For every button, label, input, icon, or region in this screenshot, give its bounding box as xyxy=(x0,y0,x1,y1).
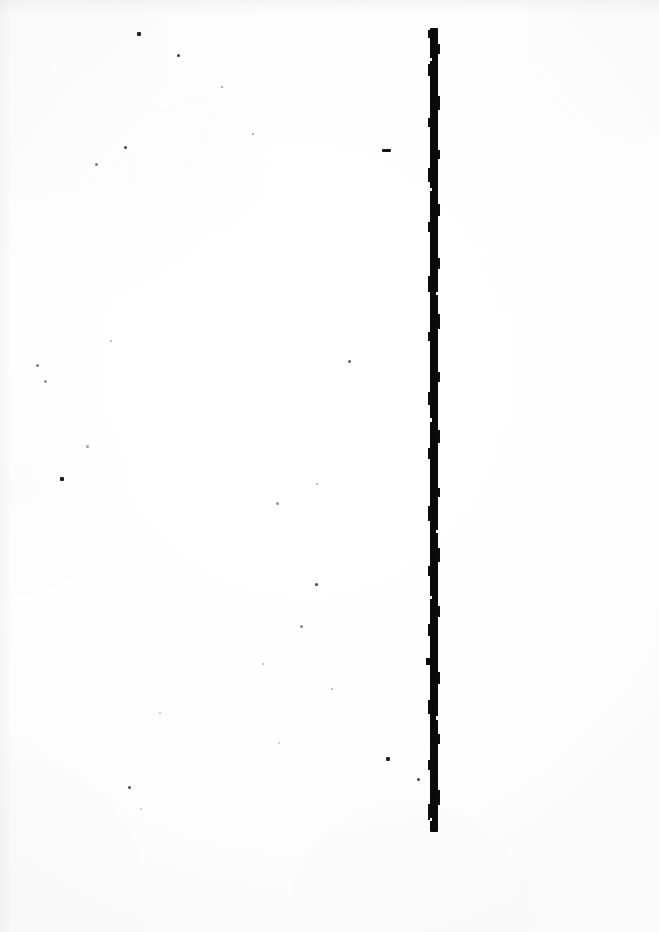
vertical-rule-edge-fragment xyxy=(428,30,430,38)
scanned-page xyxy=(0,0,659,932)
dust-speck xyxy=(316,483,318,485)
vertical-rule-edge-fragment xyxy=(438,150,440,159)
dust-speck xyxy=(386,757,390,761)
vertical-rule-edge-fragment xyxy=(428,506,430,521)
vertical-rule-edge-fragment xyxy=(428,222,430,232)
vertical-rule-edge-fragment xyxy=(438,672,440,684)
dust-speck xyxy=(348,360,351,363)
dust-speck xyxy=(60,477,64,481)
vertical-rule-edge-fragment xyxy=(438,44,440,54)
dust-speck xyxy=(140,808,142,810)
vertical-rule-edge-fragment xyxy=(438,372,440,382)
vertical-rule-edge-fragment xyxy=(428,64,430,76)
vertical-rule-nick xyxy=(430,188,432,191)
vertical-rule-edge-fragment xyxy=(438,548,440,562)
dust-speck xyxy=(137,32,141,36)
dust-speck xyxy=(331,688,333,690)
vertical-rule-edge-fragment xyxy=(438,430,440,443)
vertical-rule-nick xyxy=(436,716,438,720)
vertical-rule-edge-fragment xyxy=(428,448,430,459)
vertical-rule-edge-fragment xyxy=(428,118,430,127)
vertical-rule-edge-fragment xyxy=(428,760,430,770)
dust-speck xyxy=(86,445,89,448)
dust-speck xyxy=(315,583,318,586)
paper-left-edge-shadow xyxy=(0,0,12,932)
vertical-rule-kink xyxy=(426,658,430,665)
vertical-rule-edge-fragment xyxy=(428,168,430,182)
vertical-rule xyxy=(430,28,438,832)
vertical-rule-edge-fragment xyxy=(428,624,430,636)
vertical-rule-nick xyxy=(436,530,438,533)
vertical-rule-edge-fragment xyxy=(438,790,440,805)
vertical-rule-edge-fragment xyxy=(428,700,430,714)
dash-mark xyxy=(382,149,391,152)
paper-top-edge-shadow xyxy=(0,0,659,14)
vertical-rule-edge-fragment xyxy=(438,734,440,744)
vertical-rule-edge-fragment xyxy=(438,204,440,216)
vertical-rule-nick xyxy=(430,58,432,61)
vertical-rule-nick xyxy=(436,292,438,295)
vertical-rule-edge-fragment xyxy=(428,332,430,341)
dust-speck xyxy=(262,663,264,665)
dust-speck xyxy=(221,86,223,88)
vertical-rule-edge-fragment xyxy=(428,392,430,405)
dust-speck xyxy=(95,163,98,166)
vertical-rule-edge-fragment xyxy=(438,258,440,269)
vertical-rule-edge-fragment xyxy=(438,488,440,497)
dust-speck xyxy=(159,712,161,714)
paper-grain-texture xyxy=(0,0,659,932)
dust-speck xyxy=(300,625,303,628)
vertical-rule-nick xyxy=(430,818,432,821)
dust-speck xyxy=(110,340,112,342)
dust-speck xyxy=(177,54,180,57)
vertical-rule-edge-fragment xyxy=(438,314,440,329)
dust-speck xyxy=(417,778,420,781)
dust-speck xyxy=(278,742,280,744)
dust-speck xyxy=(252,133,254,135)
dust-speck xyxy=(36,364,39,367)
dust-speck xyxy=(124,146,127,149)
dust-speck xyxy=(276,502,279,505)
vertical-rule-edge-fragment xyxy=(438,96,440,110)
vertical-rule-edge-fragment xyxy=(428,276,430,292)
vertical-rule-nick xyxy=(430,596,432,599)
vertical-rule-edge-fragment xyxy=(438,606,440,617)
vertical-rule-edge-fragment xyxy=(428,566,430,576)
dust-speck xyxy=(44,380,47,383)
dust-speck xyxy=(128,786,131,789)
vertical-rule-nick xyxy=(430,418,432,422)
